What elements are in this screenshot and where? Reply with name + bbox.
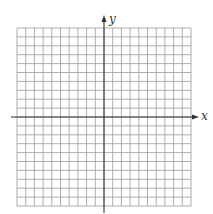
coordinate-plane [0,0,213,214]
x-axis-label: x [201,110,208,122]
y-axis-arrow-icon [102,15,107,22]
x-axis-arrow-icon [192,115,199,120]
y-axis-label: y [109,13,116,25]
